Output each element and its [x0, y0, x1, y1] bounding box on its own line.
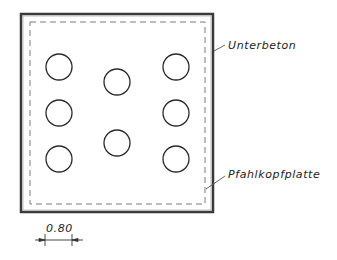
piles-group: [46, 54, 189, 172]
unterbeton-inner-edge: [23, 16, 211, 210]
pile-circle: [163, 54, 189, 80]
dimension-arrow-right: [72, 239, 78, 242]
dimension-arrow-left: [39, 239, 45, 242]
pfahlkopfplatte-outline: [30, 22, 205, 204]
pfahlkopfplatte-label: Pfahlkopfplatte: [228, 168, 320, 181]
pile-circle: [46, 100, 72, 126]
pile-circle: [104, 130, 130, 156]
pile-circle: [46, 54, 72, 80]
pile-circle: [163, 146, 189, 172]
pile-circle: [104, 69, 130, 95]
pile-circle: [163, 100, 189, 126]
dimension-value: 0.80: [46, 222, 73, 235]
unterbeton-outline: [21, 14, 213, 212]
pile-circle: [46, 146, 72, 172]
pfahlkopfplatte-leader: [206, 176, 225, 189]
pile-cap-drawing: Unterbeton Pfahlkopfplatte 0.80: [0, 0, 337, 260]
dimension-group: [35, 234, 83, 246]
unterbeton-label: Unterbeton: [228, 39, 296, 52]
unterbeton-leader: [214, 45, 225, 51]
